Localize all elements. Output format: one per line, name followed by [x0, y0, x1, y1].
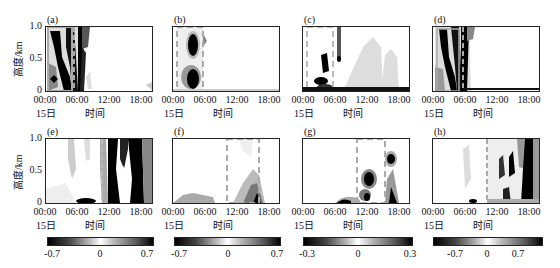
- panel-label-c: (c): [304, 14, 315, 25]
- x-tick: 18:00: [124, 94, 158, 105]
- x-sub-label: 15日: [424, 105, 444, 120]
- colorbar-1-tick-mid: 0: [85, 248, 115, 259]
- y-tick-0.5-top: 0.5: [22, 52, 42, 63]
- x-axis-label: 时间: [343, 105, 363, 120]
- panel-a: [45, 26, 153, 92]
- panel-label-f: (f): [174, 126, 184, 137]
- x-tick: 12:00: [92, 94, 126, 105]
- x-sub-label: 15日: [294, 105, 314, 120]
- x-axis-label: 时间: [85, 105, 105, 120]
- x-sub-label: 15日: [36, 217, 56, 232]
- panel-b: [172, 26, 280, 92]
- x-tick: 06:00: [188, 206, 222, 217]
- x-tick: 06:00: [318, 206, 352, 217]
- heatmap-h: [433, 139, 540, 204]
- panel-g: [302, 138, 410, 204]
- x-tick: 00:00: [156, 94, 190, 105]
- x-tick: 12:00: [350, 94, 384, 105]
- x-tick: 12:00: [220, 94, 254, 105]
- colorbar-4-tick-min: -0.7: [440, 248, 470, 259]
- panel-label-e: (e): [47, 126, 58, 137]
- colorbar-3-tick-max: 0.3: [395, 248, 425, 259]
- x-tick: 00:00: [28, 206, 62, 217]
- colorbar-3-tick-mid: 0: [343, 248, 373, 259]
- x-tick: 06:00: [188, 94, 222, 105]
- panel-c: [302, 26, 410, 92]
- colorbar-1-tick-max: 0.7: [132, 248, 162, 259]
- heatmap-d: [433, 27, 540, 92]
- x-tick: 00:00: [28, 94, 62, 105]
- x-tick: 18:00: [382, 94, 416, 105]
- x-tick: 18:00: [512, 94, 546, 105]
- x-sub-label: 15日: [424, 217, 444, 232]
- x-tick: 06:00: [448, 206, 482, 217]
- panel-f: [172, 138, 280, 204]
- heatmap-c: [303, 27, 410, 92]
- x-tick: 06:00: [318, 94, 352, 105]
- x-tick: 12:00: [92, 206, 126, 217]
- x-sub-label: 15日: [164, 217, 184, 232]
- x-tick: 18:00: [252, 206, 286, 217]
- x-axis-label: 时间: [213, 217, 233, 232]
- panel-h: [432, 138, 540, 204]
- x-tick: 18:00: [382, 206, 416, 217]
- heatmap-e: [46, 139, 153, 204]
- y-tick-1.0-top: 1.0: [22, 20, 42, 31]
- panel-label-b: (b): [174, 14, 186, 25]
- colorbar-2-tick-max: 0.7: [262, 248, 292, 259]
- colorbar-3-tick-min: -0.3: [292, 248, 322, 259]
- x-tick: 00:00: [416, 206, 450, 217]
- colorbar-1-tick-min: -0.7: [37, 248, 67, 259]
- x-tick: 18:00: [124, 206, 158, 217]
- x-tick: 00:00: [286, 206, 320, 217]
- x-axis-label: 时间: [473, 105, 493, 120]
- colorbar-2: [174, 237, 281, 246]
- colorbar-4-tick-max: 0.7: [503, 248, 533, 259]
- x-tick: 18:00: [252, 94, 286, 105]
- heatmap-f: [173, 139, 280, 204]
- x-tick: 12:00: [220, 206, 254, 217]
- colorbar-2-tick-min: -0.7: [164, 248, 194, 259]
- x-tick: 00:00: [416, 94, 450, 105]
- colorbar-2-tick-mid: 0: [213, 248, 243, 259]
- x-tick: 06:00: [448, 94, 482, 105]
- x-sub-label: 15日: [36, 105, 56, 120]
- x-sub-label: 15日: [294, 217, 314, 232]
- x-tick: 12:00: [350, 206, 384, 217]
- x-axis-label: 时间: [343, 217, 363, 232]
- x-axis-label: 时间: [85, 217, 105, 232]
- x-tick: 00:00: [156, 206, 190, 217]
- x-sub-label: 15日: [164, 105, 184, 120]
- panel-label-d: (d): [434, 14, 446, 25]
- colorbar-4-tick-mid: 0: [472, 248, 502, 259]
- colorbar-3: [303, 237, 413, 246]
- heatmap-g: [303, 139, 410, 204]
- x-axis-label: 时间: [213, 105, 233, 120]
- colorbar-1: [47, 237, 154, 246]
- x-tick: 06:00: [60, 206, 94, 217]
- y-tick-0.5-bottom: 0.5: [22, 164, 42, 175]
- heatmap-a: [46, 27, 153, 92]
- heatmap-b: [173, 27, 280, 92]
- x-axis-label: 时间: [473, 217, 493, 232]
- panel-label-g: (g): [304, 126, 316, 137]
- panel-d: [432, 26, 540, 92]
- x-tick: 18:00: [512, 206, 546, 217]
- x-tick: 00:00: [286, 94, 320, 105]
- x-tick: 12:00: [480, 94, 514, 105]
- x-tick: 06:00: [60, 94, 94, 105]
- x-tick: 12:00: [480, 206, 514, 217]
- colorbar-4: [433, 237, 543, 246]
- y-tick-1.0-bottom: 1.0: [22, 132, 42, 143]
- panel-e: [45, 138, 153, 204]
- panel-label-h: (h): [434, 126, 446, 137]
- panel-label-a: (a): [47, 14, 58, 25]
